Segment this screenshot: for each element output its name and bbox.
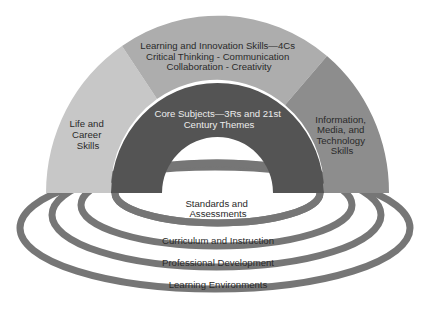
label-curriculum-instruction: Curriculum and Instruction <box>162 235 274 246</box>
label-learning-environments: Learning Environments <box>169 279 268 290</box>
framework-diagram: Learning and Innovation Skills—4Cs Criti… <box>0 0 433 312</box>
label-professional-development: Professional Development <box>162 257 274 268</box>
label-standards-assessments: Standards and Assessments <box>185 198 250 219</box>
